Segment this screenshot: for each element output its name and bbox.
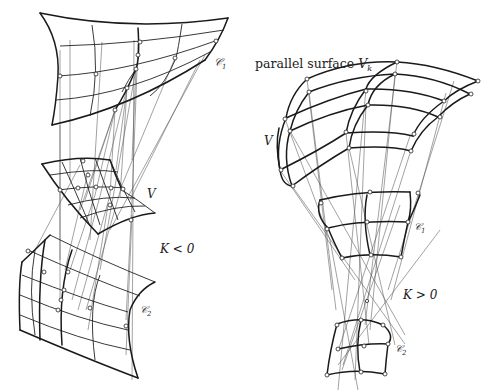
right-curvature-label: K > 0	[402, 288, 438, 302]
left-curvature-label: K < 0	[159, 242, 195, 256]
left-caustic-1-surface	[40, 13, 228, 125]
right-normal-rays	[280, 62, 454, 390]
right-caustic-2-surface	[325, 318, 391, 377]
right-caustic-1-surface	[319, 190, 420, 303]
left-panel: 𝒞1 V K < 0 𝒞2	[19, 13, 228, 380]
right-surface-v-label: V	[264, 134, 274, 148]
left-surface-v-label: V	[147, 187, 157, 201]
caustics-diagram: 𝒞1 V K < 0 𝒞2	[0, 0, 492, 392]
right-panel: parallel surface Vk V 𝒞1 K > 0 𝒞2	[255, 56, 480, 390]
left-caustic-1-label: 𝒞1	[214, 56, 226, 71]
left-caustic-2-label: 𝒞2	[140, 304, 152, 318]
left-surface-v	[42, 158, 155, 234]
right-parallel-surface	[277, 60, 480, 188]
right-caustic-1-label: 𝒞1	[414, 221, 425, 235]
parallel-surface-label: parallel surface Vk	[255, 56, 372, 73]
right-caustic-2-label: 𝒞2	[395, 343, 407, 357]
